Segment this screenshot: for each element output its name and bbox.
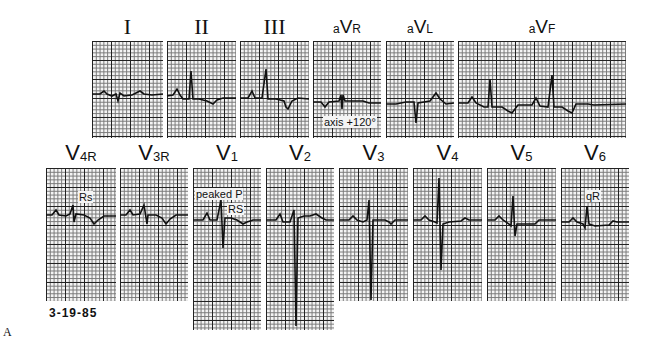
lead-label-V4: V4 <box>413 140 482 166</box>
annotation-qR: qR <box>585 190 601 202</box>
ecg-strip-I <box>92 41 163 138</box>
lead-label-II: II <box>167 14 236 40</box>
lead-label-III: III <box>240 14 309 40</box>
figure-panel-letter: A <box>3 325 12 340</box>
ecg-trace-V6 <box>561 168 629 301</box>
lead-label-V5: V5 <box>487 140 556 166</box>
ecg-trace-V5 <box>487 168 556 301</box>
ecg-strip-V4 <box>413 168 482 301</box>
lead-label-V1: V1 <box>193 140 261 166</box>
axis-annotation: axis +120° <box>323 116 377 128</box>
annotation-peaked-P: peaked P <box>195 188 243 200</box>
ecg-strip-aVR: axis +120° <box>313 41 381 138</box>
ecg-trace-II <box>167 41 236 138</box>
lead-label-aVL: aVL <box>386 16 454 38</box>
annotation-RS: RS <box>227 203 244 215</box>
ecg-strip-V2 <box>266 168 334 330</box>
ecg-strip-aVL <box>386 41 454 138</box>
ecg-trace-III <box>240 41 309 138</box>
ecg-strip-V5 <box>487 168 556 301</box>
ecg-strip-V4R: Rs <box>46 168 116 301</box>
annotation-Rs: Rs <box>78 191 93 203</box>
ecg-strip-V3R <box>120 168 188 301</box>
ecg-trace-aVF <box>458 41 626 138</box>
ecg-trace-V2 <box>266 168 334 330</box>
ecg-strip-aVF <box>458 41 626 138</box>
ecg-trace-aVL <box>386 41 454 138</box>
ecg-strip-V6: qR <box>561 168 629 301</box>
lead-label-aVF: aVF <box>458 16 626 38</box>
ecg-trace-V3R <box>120 168 188 301</box>
lead-label-V4R: V4R <box>46 140 116 166</box>
ecg-strip-V3 <box>339 168 408 301</box>
lead-label-V2: V2 <box>266 140 334 166</box>
ecg-strip-III <box>240 41 309 138</box>
ecg-trace-V4 <box>413 168 482 301</box>
ecg-strip-V1: peaked P RS <box>193 168 261 330</box>
recording-date: 3-19-85 <box>49 306 97 320</box>
ecg-trace-V4R <box>46 168 116 301</box>
ecg-strip-II <box>167 41 236 138</box>
ecg-trace-V3 <box>339 168 408 301</box>
ecg-trace-I <box>92 41 163 138</box>
lead-label-aVR: aVR <box>313 16 381 38</box>
lead-label-V6: V6 <box>561 140 629 166</box>
lead-label-V3: V3 <box>339 140 408 166</box>
lead-label-V3R: V3R <box>120 140 188 166</box>
lead-label-I: I <box>92 14 163 40</box>
